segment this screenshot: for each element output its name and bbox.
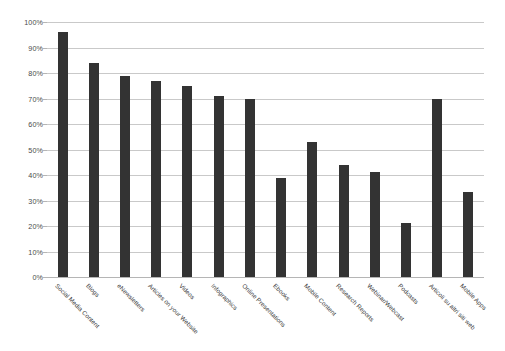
y-axis-tick-label: 10%	[3, 247, 43, 256]
gridline	[47, 22, 484, 23]
bar-chart: 0%10%20%30%40%50%60%70%80%90%100% Social…	[0, 0, 505, 351]
x-axis-tick-label: Mobile Content	[303, 282, 338, 317]
y-axis-tick-label: 90%	[3, 43, 43, 52]
x-axis-tick-label: Ebooks	[272, 282, 292, 302]
y-axis-tick-label: 20%	[3, 222, 43, 231]
bar	[214, 96, 224, 277]
bar	[463, 192, 473, 277]
gridline	[47, 277, 484, 278]
bar	[432, 99, 442, 278]
bar	[58, 32, 68, 277]
bar	[401, 223, 411, 277]
y-axis-tick-label: 40%	[3, 171, 43, 180]
x-axis-tick-label: Videos	[179, 282, 197, 300]
gridline	[47, 124, 484, 125]
bar	[339, 165, 349, 277]
y-axis-tick-label: 60%	[3, 120, 43, 129]
bar	[120, 76, 130, 277]
gridline	[47, 99, 484, 100]
gridline	[47, 150, 484, 151]
x-axis-tick-label: Podcasts	[397, 282, 420, 305]
y-axis-tick-label: 50%	[3, 145, 43, 154]
gridline	[47, 226, 484, 227]
plot-area	[47, 22, 484, 277]
gridline	[47, 201, 484, 202]
bar	[151, 81, 161, 277]
gridline	[47, 73, 484, 74]
bar	[245, 99, 255, 278]
x-axis-tick-label: Articles on your Website	[147, 282, 200, 335]
bar	[182, 86, 192, 277]
bar	[370, 172, 380, 277]
y-axis-tick-label: 70%	[3, 94, 43, 103]
x-axis-tick-label: Blogs	[85, 282, 101, 298]
bar	[307, 142, 317, 277]
y-axis-tick-label: 30%	[3, 196, 43, 205]
gridline	[47, 252, 484, 253]
x-axis-tick-label: Infographics	[210, 282, 239, 311]
gridline	[47, 48, 484, 49]
gridline	[47, 175, 484, 176]
bar	[276, 178, 286, 277]
y-axis-tick-label: 80%	[3, 69, 43, 78]
y-axis-tick-label: 0%	[3, 273, 43, 282]
y-axis-tick-label: 100%	[3, 18, 43, 27]
bar	[89, 63, 99, 277]
x-axis-tick-label: Mobile Apps	[459, 282, 488, 311]
x-axis-tick-label: eNewsletters	[116, 282, 147, 313]
